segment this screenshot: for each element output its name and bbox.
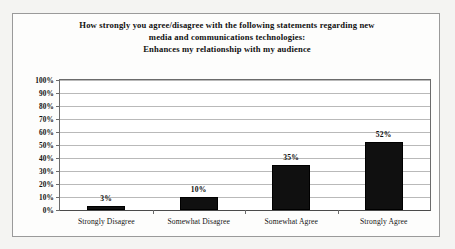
ytick-label: 90%	[39, 89, 54, 98]
ytick-label: 80%	[39, 102, 54, 111]
bar-group: 35% Somewhat Agree	[245, 80, 338, 210]
bar-group: 10% Somewhat Disagree	[153, 80, 246, 210]
bar-group: 52% Strongly Agree	[338, 80, 431, 210]
bar-group: 3% Strongly Disagree	[60, 80, 153, 210]
chart-frame: How strongly you agree/disagree with the…	[12, 13, 440, 237]
bar[interactable]	[272, 165, 310, 211]
bar[interactable]	[180, 197, 218, 210]
bar[interactable]	[87, 206, 125, 210]
xtick-label: Strongly Disagree	[78, 217, 135, 226]
ytick-label: 10%	[39, 193, 54, 202]
bar-value-label: 10%	[191, 185, 207, 194]
xtick-label: Strongly Agree	[360, 217, 408, 226]
ytick-label: 70%	[39, 115, 54, 124]
chart-title: How strongly you agree/disagree with the…	[27, 20, 427, 55]
xtick-label: Somewhat Disagree	[167, 217, 230, 226]
category-divider	[245, 210, 246, 214]
bar-value-label: 3%	[100, 194, 112, 203]
chart-title-line-3: Enhances my relationship with my audienc…	[27, 44, 427, 56]
chart-title-line-2: media and communications technologies:	[27, 32, 427, 44]
ytick-label: 30%	[39, 167, 54, 176]
xtick-label: Somewhat Agree	[265, 217, 319, 226]
tick-mark	[56, 210, 60, 211]
ytick-label: 20%	[39, 180, 54, 189]
ytick-label: 40%	[39, 154, 54, 163]
bar-value-label: 52%	[376, 130, 392, 139]
category-divider	[153, 210, 154, 214]
ytick-label: 50%	[39, 141, 54, 150]
plot-area: 100% 90% 80% 70% 60% 50%	[59, 79, 431, 211]
bar[interactable]	[365, 142, 403, 210]
ytick-label: 0%	[43, 206, 54, 215]
chart-title-line-1: How strongly you agree/disagree with the…	[27, 20, 427, 32]
ytick-label: 100%	[35, 76, 54, 85]
category-divider	[338, 210, 339, 214]
ytick-label: 60%	[39, 128, 54, 137]
bar-value-label: 35%	[283, 153, 299, 162]
